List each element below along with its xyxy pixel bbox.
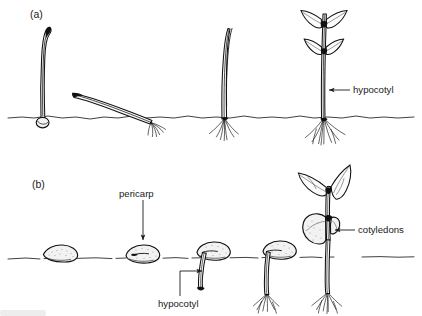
- callout-cotyledons-b-label: cotyledons: [358, 224, 404, 235]
- callout-hypocotyl-b-label: hypocotyl: [158, 298, 199, 309]
- panel-a-label: (a): [30, 8, 43, 20]
- callout-hypocotyl-a-label: hypocotyl: [353, 84, 394, 95]
- seed-a1: [36, 117, 49, 127]
- panel-b-label: (b): [32, 178, 45, 190]
- germination-diagram: (a): [0, 0, 422, 316]
- canvas-background: [0, 0, 422, 316]
- figure-root: (a): [0, 0, 422, 316]
- callout-pericarp-b-label: pericarp: [119, 188, 154, 199]
- scan-artifact: [0, 310, 46, 316]
